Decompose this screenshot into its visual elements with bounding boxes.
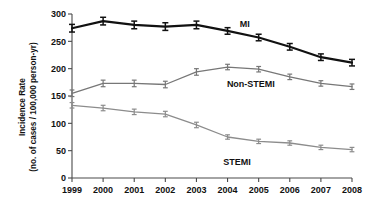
- x-axis-ticks: 1999200020012002200320042005200620072008: [62, 178, 362, 195]
- y-tick-label: 250: [51, 37, 66, 47]
- series-label-non-stemi: Non-STEMI: [227, 79, 275, 89]
- x-tick-label: 2005: [249, 185, 269, 195]
- y-tick-label: 150: [51, 91, 66, 101]
- x-tick-label: 2006: [280, 185, 300, 195]
- y-axis-label-container: Incidence Rate (no. of cases / 100,000 p…: [0, 0, 46, 207]
- y-tick-label: 50: [56, 146, 66, 156]
- y-tick-label: 100: [51, 119, 66, 129]
- series-line: [72, 105, 352, 149]
- x-tick-label: 2004: [218, 185, 238, 195]
- axes: [72, 14, 352, 178]
- incidence-rate-line-chart: Incidence Rate (no. of cases / 100,000 p…: [0, 0, 368, 207]
- series-label-stemi: STEMI: [223, 157, 251, 167]
- x-tick-label: 2008: [342, 185, 362, 195]
- series-non-stemi: [70, 64, 355, 96]
- y-axis-label: Incidence Rate (no. of cases / 100,000 p…: [17, 17, 39, 197]
- y-axis-label-line2: (no. of cases / 100,000 person-yr): [28, 17, 39, 197]
- x-tick-label: 1999: [62, 185, 82, 195]
- y-axis-ticks: 050100150200250300: [51, 9, 72, 183]
- x-tick-label: 2003: [186, 185, 206, 195]
- x-tick-label: 2000: [93, 185, 113, 195]
- y-tick-label: 0: [61, 173, 66, 183]
- x-tick-label: 2001: [124, 185, 144, 195]
- series-line: [72, 21, 352, 63]
- y-tick-label: 200: [51, 64, 66, 74]
- x-tick-label: 2007: [311, 185, 331, 195]
- series-stemi: [70, 103, 355, 152]
- series-label-mi: MI: [240, 19, 250, 29]
- plot-area: 0501001502002503001999200020012002200320…: [0, 0, 368, 207]
- y-tick-label: 300: [51, 9, 66, 19]
- series-line: [72, 67, 352, 93]
- x-tick-label: 2002: [155, 185, 175, 195]
- y-axis-label-line1: Incidence Rate: [17, 17, 28, 197]
- series-mi: [69, 17, 355, 66]
